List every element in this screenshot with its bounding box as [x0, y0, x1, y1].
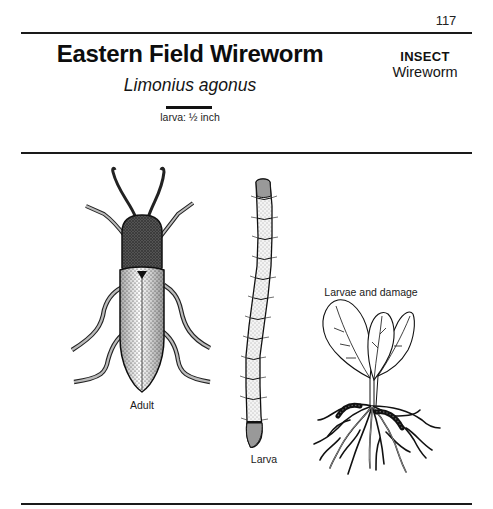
- page-title: Eastern Field Wireworm: [40, 40, 340, 68]
- damage-caption: Larvae and damage: [314, 286, 428, 298]
- subcategory-label: Wireworm: [383, 64, 467, 80]
- bottom-divider: [21, 503, 472, 505]
- header-divider: [21, 152, 472, 154]
- plant-root-damage-illustration: [310, 298, 450, 476]
- larva-illustration: [236, 176, 286, 452]
- scientific-name: Limonius agonus: [40, 75, 340, 96]
- adult-caption: Adult: [117, 399, 167, 411]
- top-divider: [21, 32, 472, 34]
- scale-label: larva: ½ inch: [140, 111, 240, 123]
- page-number: 117: [421, 13, 471, 28]
- scale-bar: [166, 106, 212, 109]
- beetle-illustration: [60, 160, 230, 400]
- larva-caption: Larva: [239, 453, 289, 465]
- category-label: INSECT: [390, 49, 460, 64]
